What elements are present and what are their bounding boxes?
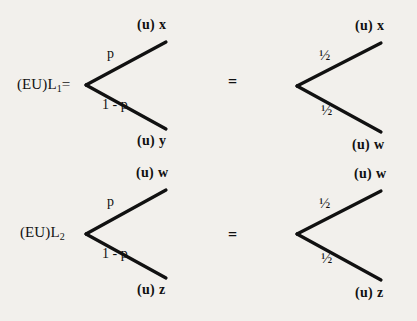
probability-text: p bbox=[107, 46, 114, 61]
outcome-label-upper: (u)x bbox=[355, 19, 384, 33]
probability-text: 1 - p bbox=[102, 246, 128, 261]
lottery-tree-eu-l2: (EU)L2 p 1 - p (u)w (u)z bbox=[0, 161, 208, 321]
outcome-variable: z bbox=[159, 282, 165, 297]
probability-text: ½ bbox=[321, 250, 332, 266]
branch-upper bbox=[86, 190, 166, 234]
probability-text: 1 - p bbox=[102, 97, 128, 112]
branch-lower bbox=[297, 86, 381, 132]
branch-lower bbox=[297, 234, 381, 280]
outcome-prefix: (u) bbox=[355, 18, 373, 33]
branch-upper bbox=[86, 42, 166, 85]
probability-text: ½ bbox=[321, 102, 332, 118]
outcome-label-lower: (u)z bbox=[355, 286, 383, 300]
probability-text: ½ bbox=[319, 195, 330, 211]
root-label-suffix: = bbox=[62, 76, 70, 92]
lottery-tree-eu-l1: (EU)L1= p 1 - p (u)x (u)y bbox=[0, 0, 208, 160]
lottery-tree-equivalent-1: ½ ½ (u)x (u)w bbox=[209, 0, 417, 160]
lottery-tree-equivalent-2: ½ ½ (u)w (u)z bbox=[209, 161, 417, 321]
tree-branches-equivalent-2 bbox=[209, 161, 417, 321]
outcome-variable: w bbox=[158, 165, 168, 180]
outcome-prefix: (u) bbox=[137, 17, 155, 32]
probability-text: ½ bbox=[319, 47, 330, 63]
outcome-label-upper: (u)w bbox=[354, 167, 386, 181]
probability-label-upper: p bbox=[107, 195, 114, 209]
root-label-subscript: 2 bbox=[60, 231, 65, 242]
probability-label-upper: p bbox=[107, 47, 114, 61]
outcome-variable: x bbox=[159, 17, 166, 32]
outcome-prefix: (u) bbox=[354, 166, 372, 181]
diagram-canvas: (EU)L1= p 1 - p (u)x (u)y = ½ ½ (u)x (u)… bbox=[0, 0, 417, 321]
branch-upper bbox=[297, 43, 381, 86]
outcome-prefix: (u) bbox=[137, 282, 155, 297]
outcome-variable: x bbox=[377, 18, 384, 33]
probability-label-upper: ½ bbox=[319, 48, 330, 63]
outcome-label-lower: (u)y bbox=[137, 134, 166, 148]
probability-label-lower: 1 - p bbox=[102, 98, 128, 112]
outcome-label-lower: (u)z bbox=[137, 283, 165, 297]
probability-label-lower: ½ bbox=[321, 251, 332, 266]
probability-label-upper: ½ bbox=[319, 196, 330, 211]
outcome-label-lower: (u)w bbox=[352, 138, 384, 152]
outcome-variable: z bbox=[377, 285, 383, 300]
branch-upper bbox=[297, 191, 381, 234]
outcome-variable: y bbox=[159, 133, 166, 148]
probability-label-lower: 1 - p bbox=[102, 247, 128, 261]
root-label-eu-l2: (EU)L2 bbox=[20, 225, 65, 242]
outcome-prefix: (u) bbox=[137, 133, 155, 148]
probability-label-lower: ½ bbox=[321, 103, 332, 118]
root-label-eu-l1: (EU)L1= bbox=[17, 77, 70, 94]
outcome-variable: w bbox=[376, 166, 386, 181]
outcome-label-upper: (u)x bbox=[137, 18, 166, 32]
probability-text: p bbox=[107, 194, 114, 209]
outcome-prefix: (u) bbox=[355, 285, 373, 300]
tree-branches-equivalent-1 bbox=[209, 0, 417, 160]
outcome-label-upper: (u)w bbox=[136, 166, 168, 180]
outcome-variable: w bbox=[374, 137, 384, 152]
root-label-text: (EU)L bbox=[17, 76, 57, 92]
root-label-text: (EU)L bbox=[20, 224, 60, 240]
outcome-prefix: (u) bbox=[352, 137, 370, 152]
outcome-prefix: (u) bbox=[136, 165, 154, 180]
